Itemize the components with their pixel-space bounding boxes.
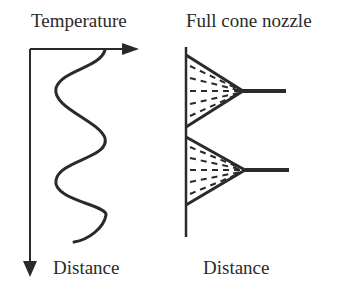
arrow-down-icon <box>23 261 37 277</box>
nozzle-lower <box>186 137 289 205</box>
arrow-right-icon <box>122 43 139 55</box>
temperature-wave <box>56 50 106 242</box>
diagram-canvas <box>0 0 356 299</box>
nozzle-upper <box>186 55 286 127</box>
